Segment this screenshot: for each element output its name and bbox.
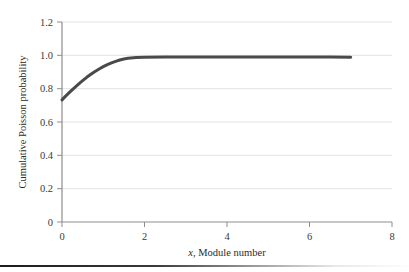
y-tick-label-1.0: 1.0 [40, 50, 53, 61]
x-axis-title: x, Module number [187, 247, 266, 258]
figure-container: 1.2 1.0 0.8 0.6 0.4 0.2 0 0 2 4 6 8 x, M… [0, 0, 409, 272]
poisson-cumulative-chart: 1.2 1.0 0.8 0.6 0.4 0.2 0 0 2 4 6 8 x, M… [0, 0, 409, 272]
y-tick-labels: 1.2 1.0 0.8 0.6 0.4 0.2 0 [40, 17, 54, 228]
x-tick-label-6: 6 [307, 231, 312, 242]
x-axis-ticks [62, 222, 392, 227]
x-tick-labels: 0 2 4 6 8 [59, 231, 394, 242]
data-series-line [62, 57, 351, 100]
x-tick-label-4: 4 [224, 231, 230, 242]
y-tick-label-0.2: 0.2 [40, 183, 53, 194]
y-tick-label-0.6: 0.6 [40, 117, 53, 128]
y-axis-ticks [57, 22, 62, 222]
y-tick-label-0.8: 0.8 [40, 83, 53, 94]
y-tick-label-0.4: 0.4 [40, 150, 54, 161]
y-axis-title: Cumulative Poisson probability [17, 55, 28, 189]
y-tick-label-0: 0 [48, 217, 53, 228]
gridlines [62, 22, 392, 189]
x-tick-label-2: 2 [142, 231, 147, 242]
bottom-divider-rule [0, 265, 409, 267]
x-axis-title-rest: , Module number [193, 247, 266, 258]
y-tick-label-1.2: 1.2 [40, 17, 53, 28]
x-tick-label-8: 8 [389, 231, 394, 242]
x-tick-label-0: 0 [59, 231, 64, 242]
